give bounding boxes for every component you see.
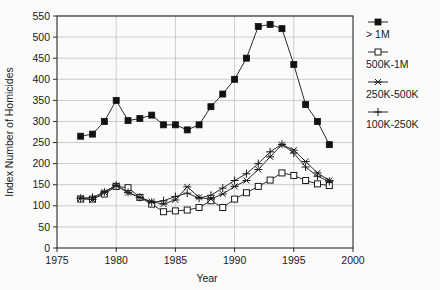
data-point-marker bbox=[291, 172, 297, 178]
y-tick-label: 0 bbox=[44, 242, 50, 254]
y-tick-label: 500 bbox=[32, 31, 50, 43]
data-point-marker bbox=[267, 177, 273, 183]
y-tick-label: 200 bbox=[32, 157, 50, 169]
data-point-marker bbox=[243, 55, 249, 61]
data-point-marker bbox=[78, 133, 84, 139]
legend-item-2[interactable]: 500K-1M bbox=[366, 49, 409, 70]
legend-item-3[interactable]: 250K-500K bbox=[366, 79, 419, 100]
data-series-group bbox=[77, 21, 334, 214]
data-point-marker bbox=[243, 190, 249, 196]
data-point-marker bbox=[232, 196, 238, 202]
y-tick-label: 350 bbox=[32, 94, 50, 106]
x-tick-label: 1995 bbox=[282, 254, 306, 266]
data-point-marker bbox=[314, 181, 320, 187]
x-tick-label: 1990 bbox=[223, 254, 247, 266]
data-point-marker bbox=[220, 91, 226, 97]
data-point-marker bbox=[255, 24, 261, 30]
legend-item-4[interactable]: 100K-250K bbox=[366, 108, 419, 130]
x-tick-label: 2000 bbox=[341, 254, 365, 266]
data-point-marker bbox=[113, 97, 119, 103]
legend-item-label: 500K-1M bbox=[366, 58, 409, 70]
y-tick-label: 400 bbox=[32, 73, 50, 85]
data-point-marker bbox=[375, 19, 381, 25]
data-point-marker bbox=[125, 118, 131, 124]
homicide-index-line-chart: 050100150200250300350400450500550 197519… bbox=[0, 0, 440, 290]
data-point-marker bbox=[196, 122, 202, 128]
data-point-marker bbox=[184, 127, 190, 133]
data-point-marker bbox=[255, 183, 261, 189]
legend-item-1[interactable]: > 1M bbox=[366, 19, 390, 40]
data-point-marker bbox=[375, 49, 381, 55]
data-point-marker bbox=[208, 104, 214, 110]
data-point-marker bbox=[242, 178, 250, 184]
chart-figure: 050100150200250300350400450500550 197519… bbox=[0, 0, 440, 290]
y-tick-label: 300 bbox=[32, 115, 50, 127]
y-tick-label: 250 bbox=[32, 136, 50, 148]
data-point-marker bbox=[196, 205, 202, 211]
data-point-marker bbox=[90, 131, 96, 137]
legend-item-label: 100K-250K bbox=[366, 118, 419, 130]
y-tick-label: 450 bbox=[32, 52, 50, 64]
data-point-marker bbox=[172, 208, 178, 214]
data-point-marker bbox=[184, 207, 190, 213]
chart-legend: > 1M500K-1M250K-500K100K-250K bbox=[366, 19, 419, 130]
data-point-marker bbox=[291, 62, 297, 68]
x-tick-label: 1985 bbox=[164, 254, 188, 266]
data-point-marker bbox=[374, 79, 382, 85]
y-tick-label: 550 bbox=[32, 10, 50, 22]
data-point-marker bbox=[326, 142, 332, 148]
y-tick-label: 150 bbox=[32, 178, 50, 190]
data-point-marker bbox=[267, 21, 273, 27]
data-point-marker bbox=[232, 76, 238, 82]
data-point-marker bbox=[171, 193, 179, 201]
data-point-marker bbox=[279, 26, 285, 32]
grid-lines bbox=[57, 16, 353, 248]
data-point-marker bbox=[172, 122, 178, 128]
data-point-marker bbox=[303, 102, 309, 108]
legend-item-label: > 1M bbox=[366, 28, 390, 40]
y-tick-label: 50 bbox=[38, 221, 50, 233]
data-point-marker bbox=[303, 178, 309, 184]
data-point-marker bbox=[161, 122, 167, 128]
x-axis-ticks: 197519801985199019952000 bbox=[45, 248, 365, 266]
y-axis-title: Index Number of Homicides bbox=[3, 67, 15, 197]
data-point-marker bbox=[161, 209, 167, 215]
y-axis-ticks: 050100150200250300350400450500550 bbox=[32, 10, 57, 254]
x-axis-title: Year bbox=[196, 272, 218, 284]
y-tick-label: 100 bbox=[32, 199, 50, 211]
axis-frame bbox=[57, 16, 353, 248]
x-tick-label: 1980 bbox=[105, 254, 129, 266]
data-point-marker bbox=[220, 205, 226, 211]
x-tick-label: 1975 bbox=[45, 254, 69, 266]
data-point-marker bbox=[149, 112, 155, 118]
data-point-marker bbox=[279, 170, 285, 176]
data-point-marker bbox=[137, 116, 143, 122]
data-point-marker bbox=[314, 118, 320, 124]
data-point-marker bbox=[101, 118, 107, 124]
data-point-marker bbox=[374, 108, 382, 116]
legend-item-label: 250K-500K bbox=[366, 88, 419, 100]
series-line bbox=[81, 24, 330, 144]
